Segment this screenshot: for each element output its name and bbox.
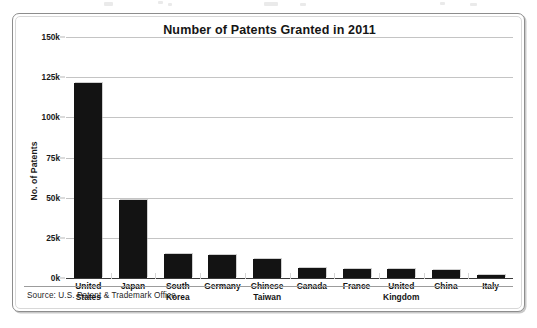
- scan-artifact-band: [0, 0, 537, 12]
- y-tick-mark: [60, 117, 65, 118]
- y-tick-label: 125k: [42, 72, 60, 82]
- scan-smudge: [470, 3, 477, 6]
- category-separator: [111, 273, 112, 279]
- chart-figure-frame: Number of Patents Granted in 2011 No. of…: [12, 13, 525, 312]
- bar[interactable]: [119, 200, 147, 278]
- scan-smudge: [168, 3, 172, 6]
- bar-group[interactable]: SouthKorea: [164, 37, 192, 278]
- source-divider: [24, 286, 513, 287]
- category-separator: [424, 273, 425, 279]
- bar[interactable]: [477, 275, 505, 278]
- y-tick-label: 25k: [46, 233, 60, 243]
- bar[interactable]: [432, 270, 460, 278]
- bar[interactable]: [387, 269, 415, 278]
- category-separator: [379, 273, 380, 279]
- scan-smudge: [264, 2, 278, 6]
- y-tick-label: 75k: [46, 153, 60, 163]
- category-separator: [245, 273, 246, 279]
- bar-group[interactable]: Japan: [119, 37, 147, 278]
- plot-area: 0k25k50k75k100k125k150k UnitedStatesJapa…: [66, 37, 513, 278]
- y-axis-title: No. of Patents: [29, 121, 39, 221]
- bar-group[interactable]: Canada: [298, 37, 326, 278]
- bar[interactable]: [298, 268, 326, 278]
- category-separator: [155, 273, 156, 279]
- category-separator: [334, 273, 335, 279]
- scan-smudge: [158, 1, 163, 4]
- y-tick-mark: [60, 197, 65, 198]
- scan-smudge: [104, 2, 113, 6]
- y-tick-label: 50k: [46, 193, 60, 203]
- bar[interactable]: [74, 83, 102, 278]
- bar-group[interactable]: ChineseTaiwan: [253, 37, 281, 278]
- y-tick-label: 150k: [42, 32, 60, 42]
- chart-title: Number of Patents Granted in 2011: [13, 23, 526, 37]
- y-tick-mark: [60, 237, 65, 238]
- bar[interactable]: [208, 255, 236, 278]
- bar-group[interactable]: France: [343, 37, 371, 278]
- bar-group[interactable]: UnitedStates: [74, 37, 102, 278]
- category-separator: [200, 273, 201, 279]
- bar-group[interactable]: Germany: [208, 37, 236, 278]
- category-separator: [290, 273, 291, 279]
- y-tick-mark: [60, 157, 65, 158]
- y-tick-mark: [60, 278, 65, 279]
- bar[interactable]: [164, 254, 192, 278]
- bar-group[interactable]: China: [432, 37, 460, 278]
- scan-smudge: [440, 2, 445, 5]
- scan-smudge: [300, 3, 306, 6]
- source-note: Source: U.S. Patent & Trademark Office: [27, 291, 176, 300]
- bar-group[interactable]: UnitedKingdom: [387, 37, 415, 278]
- category-separator: [468, 273, 469, 279]
- bars-layer: UnitedStatesJapanSouthKoreaGermanyChines…: [66, 37, 513, 278]
- bar-group[interactable]: Italy: [477, 37, 505, 278]
- y-tick-mark: [60, 77, 65, 78]
- bar[interactable]: [343, 269, 371, 278]
- bar[interactable]: [253, 259, 281, 278]
- y-tick-label: 100k: [42, 112, 60, 122]
- y-tick-mark: [60, 37, 65, 38]
